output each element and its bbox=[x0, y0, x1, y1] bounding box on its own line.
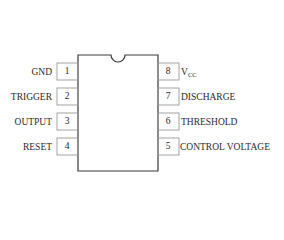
pin-label-threshold: THRESHOLD bbox=[181, 116, 237, 128]
pin-number-3: 3 bbox=[57, 115, 77, 127]
pin-number-6: 6 bbox=[158, 115, 178, 127]
pin-label-trigger: TRIGGER bbox=[11, 91, 52, 103]
vcc-main: V bbox=[181, 67, 188, 77]
pin-label-output: OUTPUT bbox=[15, 116, 52, 128]
chip-body bbox=[78, 55, 158, 171]
pin-number-5: 5 bbox=[158, 140, 178, 152]
pin-label-control-voltage: CONTROL VOLTAGE bbox=[180, 141, 270, 153]
pin-number-7: 7 bbox=[158, 90, 178, 102]
pin-number-1: 1 bbox=[57, 65, 77, 77]
pin-number-2: 2 bbox=[57, 90, 77, 102]
pin-label-reset: RESET bbox=[23, 141, 52, 153]
pin-number-4: 4 bbox=[57, 140, 77, 152]
pin-label-gnd: GND bbox=[31, 66, 52, 78]
pin-label-vcc: VCC bbox=[181, 66, 197, 81]
pin-label-discharge: DISCHARGE bbox=[181, 91, 235, 103]
pin-number-8: 8 bbox=[158, 65, 178, 77]
vcc-subscript: CC bbox=[188, 71, 197, 78]
